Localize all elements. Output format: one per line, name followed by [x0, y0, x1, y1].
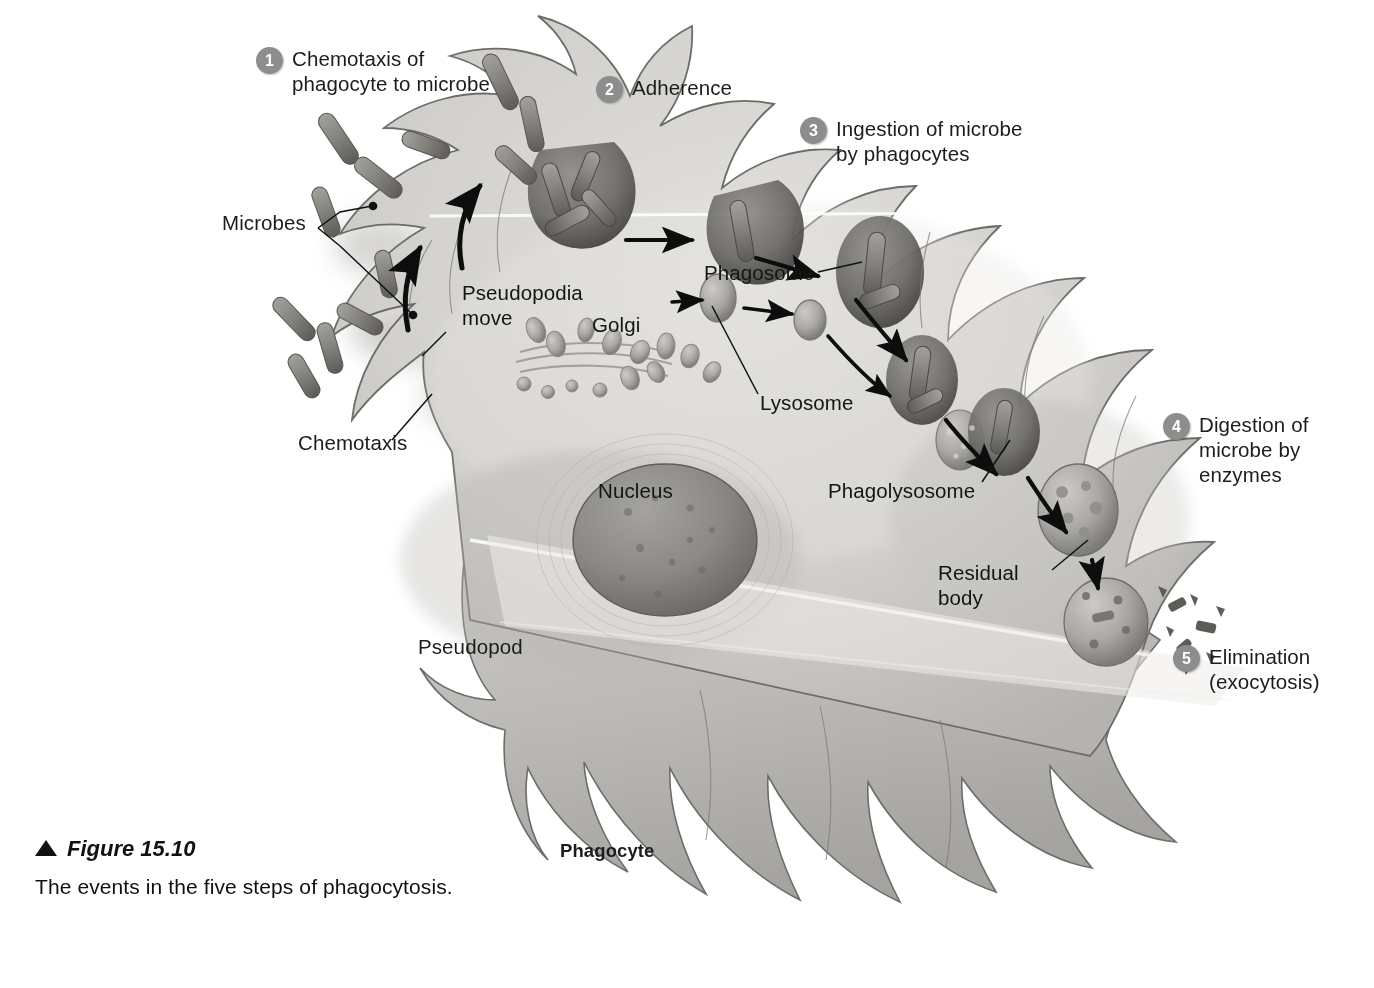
up-triangle-icon	[35, 840, 57, 856]
figure-caption-text: The events in the five steps of phagocyt…	[35, 875, 695, 899]
label-phagolysosome: Phagolysosome	[828, 478, 975, 503]
step-4-badge: 4	[1163, 413, 1190, 440]
figure-caption-title-row: Figure 15.10	[35, 836, 695, 862]
exocytosis-vesicle	[1064, 578, 1148, 666]
label-lysosome: Lysosome	[760, 390, 853, 415]
step-2-callout: 2 Adherence	[596, 75, 732, 103]
step-1-callout: 1 Chemotaxis of phagocyte to microbe	[256, 46, 490, 96]
step-3-callout: 3 Ingestion of microbe by phagocytes	[800, 116, 1023, 166]
label-golgi: Golgi	[592, 312, 640, 337]
step-5-callout: 5 Elimination (exocytosis)	[1173, 644, 1320, 694]
step-3-label: Ingestion of microbe by phagocytes	[836, 116, 1023, 166]
label-phagosome: Phagosome	[704, 260, 814, 285]
step-1-label: Chemotaxis of phagocyte to microbe	[292, 46, 490, 96]
step-5-label: Elimination (exocytosis)	[1209, 644, 1320, 694]
step-1-badge: 1	[256, 47, 283, 74]
step-3-badge: 3	[800, 117, 827, 144]
figure-caption: Figure 15.10 The events in the five step…	[35, 836, 695, 899]
step-2-label: Adherence	[632, 75, 732, 100]
label-chemotaxis: Chemotaxis	[298, 430, 407, 455]
label-pseudopod: Pseudopod	[418, 634, 523, 659]
label-microbes: Microbes	[222, 210, 306, 235]
label-nucleus: Nucleus	[598, 478, 673, 503]
adherence-pocket	[528, 142, 636, 249]
step-4-label: Digestion of microbe by enzymes	[1199, 412, 1308, 487]
label-pseudopodia-move: Pseudopodia move	[462, 280, 583, 330]
phagocyte-cell-body	[332, 16, 1248, 902]
label-residual-body: Residual body	[938, 560, 1019, 610]
step-2-badge: 2	[596, 76, 623, 103]
step-4-callout: 4 Digestion of microbe by enzymes	[1163, 412, 1308, 487]
figure-number: Figure 15.10	[67, 836, 195, 862]
internalized-microbe-pocket	[836, 216, 924, 328]
figure-15-10: 1 Chemotaxis of phagocyte to microbe 2 A…	[0, 0, 1374, 988]
step-5-badge: 5	[1173, 645, 1200, 672]
lysosome-vesicle	[794, 300, 826, 340]
